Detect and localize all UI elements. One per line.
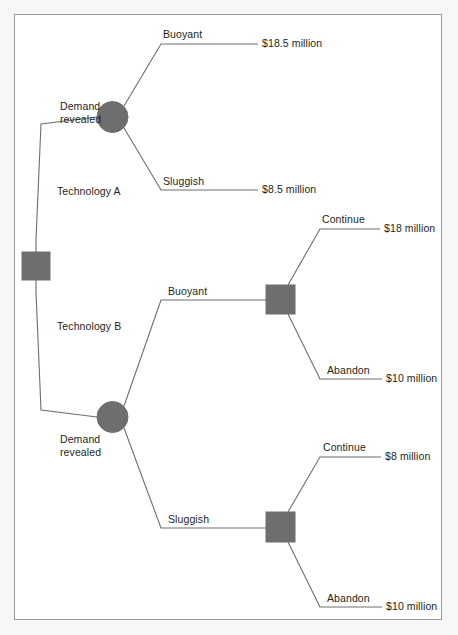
branch-label-bs-continue: Continue: [323, 441, 366, 454]
decision-tree-canvas: [0, 0, 458, 635]
branch-line-b-buoyant: [124, 300, 266, 406]
branch-label-b-buoyant: Buoyant: [168, 285, 207, 298]
node-label-demand-revealed-a: Demand revealed: [60, 100, 122, 125]
branch-label-a-buoyant: Buoyant: [163, 28, 202, 41]
node-label-demand-revealed-a-line2: revealed: [60, 113, 122, 126]
branch-line-technology-b: [36, 280, 97, 417]
branch-line-bb-continue: [288, 229, 380, 285]
branch-label-bb-abandon: Abandon: [327, 364, 370, 377]
payoff-value-bs-abandon: $10 million: [386, 600, 437, 613]
node-decision-square-sluggish-b[interactable]: [266, 512, 295, 542]
payoff-value-bb-abandon: $10 million: [386, 372, 437, 385]
branch-line-bs-continue: [288, 457, 381, 512]
branch-label-bs-abandon: Abandon: [327, 592, 370, 605]
node-label-demand-revealed-b-line2: revealed: [60, 446, 122, 459]
payoff-value-a-buoyant: $18.5 million: [262, 37, 322, 50]
payoff-value-bs-continue: $8 million: [385, 450, 430, 463]
node-label-demand-revealed-b: Demand revealed: [60, 433, 122, 458]
branch-label-a-sluggish: Sluggish: [163, 175, 204, 188]
branch-line-a-buoyant: [124, 44, 258, 106]
node-chance-circle-demand-revealed-b[interactable]: [97, 402, 128, 433]
branch-label-b-sluggish: Sluggish: [168, 513, 209, 526]
node-label-demand-revealed-a-line1: Demand: [60, 100, 122, 113]
branch-label-bb-continue: Continue: [322, 213, 365, 226]
node-root-decision-square[interactable]: [22, 252, 50, 280]
node-decision-square-buoyant-b[interactable]: [266, 285, 295, 314]
decision-tree-figure: Demand revealed Demand revealed Technolo…: [0, 0, 458, 635]
payoff-value-a-sluggish: $8.5 million: [262, 183, 316, 196]
branch-label-technology-a: Technology A: [57, 185, 121, 198]
node-label-demand-revealed-b-line1: Demand: [60, 433, 122, 446]
payoff-value-bb-continue: $18 million: [384, 222, 435, 235]
branch-label-technology-b: Technology B: [57, 320, 121, 333]
